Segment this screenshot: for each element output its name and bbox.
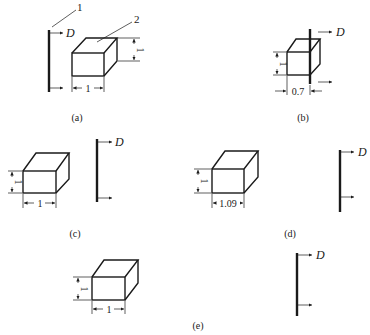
panel-caption: (a) bbox=[71, 112, 82, 124]
object-cube bbox=[23, 153, 69, 193]
object-cube bbox=[287, 39, 320, 75]
detector-label: D bbox=[335, 25, 345, 39]
panel-caption: (b) bbox=[297, 112, 309, 124]
diagram-figure: D 1 2 1 1 (a) bbox=[0, 0, 370, 335]
detector-label: D bbox=[315, 248, 325, 262]
detector-label: D bbox=[114, 135, 124, 149]
width-dim-label: 0.7 bbox=[292, 86, 305, 97]
callout-2-label: 2 bbox=[134, 13, 140, 25]
callout-leader-2 bbox=[97, 22, 132, 42]
panel-a: D 1 2 1 1 (a) bbox=[49, 1, 146, 124]
panel-e: 1 1 D (e) bbox=[73, 248, 325, 332]
object-cube bbox=[92, 260, 138, 300]
object-cube bbox=[72, 38, 117, 76]
panel-c: 1 1 D (c) bbox=[8, 135, 124, 240]
object-cube bbox=[212, 151, 258, 193]
detector-label: D bbox=[357, 145, 367, 159]
width-dim-label: 1 bbox=[107, 304, 112, 315]
panel-d: 1 1.09 D (d) bbox=[194, 145, 367, 240]
panel-caption: (c) bbox=[69, 228, 80, 240]
height-dim-label: 1 bbox=[278, 62, 289, 67]
detector-label: D bbox=[65, 26, 75, 40]
height-dim-label: 1 bbox=[199, 179, 210, 184]
panel-caption: (e) bbox=[192, 320, 203, 332]
width-dim-label: 1 bbox=[38, 198, 43, 209]
height-dim-label: 1 bbox=[135, 48, 146, 53]
height-dim-label: 1 bbox=[79, 287, 90, 292]
height-dim-label: 1 bbox=[13, 180, 24, 185]
width-dim-label: 1.09 bbox=[219, 198, 237, 209]
width-dim-label: 1 bbox=[86, 83, 91, 94]
callout-1-label: 1 bbox=[77, 1, 83, 13]
panel-b: D 1 0.7 (b) bbox=[273, 25, 345, 124]
panel-caption: (d) bbox=[284, 228, 296, 240]
callout-leader-1 bbox=[52, 10, 76, 27]
